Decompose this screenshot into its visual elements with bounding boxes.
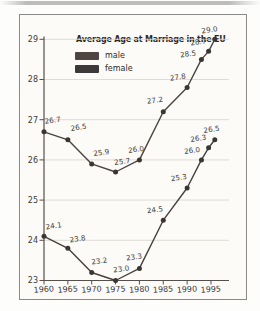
data-point-label-female: 24.1: [45, 220, 62, 231]
data-point-label-male: 29.0: [201, 24, 219, 35]
data-point-male: [185, 85, 190, 90]
x-tick-label: 1985: [153, 284, 174, 294]
data-point-label-female: 23.3: [126, 251, 143, 262]
data-point-male: [137, 157, 142, 162]
data-point-male: [206, 49, 211, 54]
data-point-female: [199, 157, 204, 162]
data-point-female: [137, 266, 142, 271]
data-point-label-female: 24.5: [146, 204, 163, 215]
data-point-male: [199, 57, 204, 62]
data-point-male: [161, 109, 166, 114]
y-tick-label: 23: [28, 276, 38, 285]
data-point-label-female: 26.0: [184, 145, 202, 156]
data-point-male: [65, 137, 70, 142]
y-tick-label: 26: [28, 156, 38, 165]
data-point-label-male: 26.7: [44, 115, 61, 126]
data-point-male: [42, 129, 47, 134]
data-point-male: [113, 169, 118, 174]
data-point-female: [206, 145, 211, 150]
data-point-female: [161, 218, 166, 223]
data-point-female: [212, 137, 217, 142]
data-point-female: [113, 278, 118, 283]
x-tick-label: 1990: [176, 284, 197, 294]
data-point-label-female: 23.2: [91, 255, 108, 266]
scanned-page: Average Age at Marriage in the EU male f…: [0, 0, 260, 311]
data-point-female: [89, 270, 94, 275]
line-chart: 2324252627282919601965197019751980198519…: [0, 0, 260, 311]
y-tick-label: 29: [28, 35, 38, 44]
data-point-label-male: 28.5: [180, 48, 197, 59]
x-tick-label: 1960: [33, 284, 54, 294]
data-point-label-female: 23.0: [113, 263, 131, 274]
data-point-label-male: 27.2: [146, 95, 163, 106]
data-point-label-male: 25.9: [93, 147, 111, 158]
data-point-label-female: 25.3: [170, 172, 187, 183]
data-point-label-female: 26.5: [203, 124, 220, 135]
y-tick-label: 28: [28, 75, 38, 84]
data-point-label-male: 26.5: [70, 122, 87, 133]
y-tick-label: 25: [28, 196, 38, 205]
y-tick-label: 24: [28, 236, 38, 245]
x-tick-label: 1980: [129, 284, 150, 294]
data-point-female: [185, 186, 190, 191]
data-point-label-female: 23.8: [69, 233, 87, 244]
data-point-male: [89, 161, 94, 166]
data-point-label-male: 27.8: [169, 71, 187, 82]
data-point-female: [42, 234, 47, 239]
x-tick-label: 1995: [200, 284, 221, 294]
y-tick-label: 27: [28, 116, 38, 125]
x-tick-label: 1965: [57, 284, 78, 294]
data-point-label-male: 28.7: [190, 36, 207, 47]
data-point-female: [65, 246, 70, 251]
data-point-male: [212, 37, 217, 42]
x-tick-label: 1970: [81, 284, 102, 294]
x-tick-label: 1975: [105, 284, 126, 294]
